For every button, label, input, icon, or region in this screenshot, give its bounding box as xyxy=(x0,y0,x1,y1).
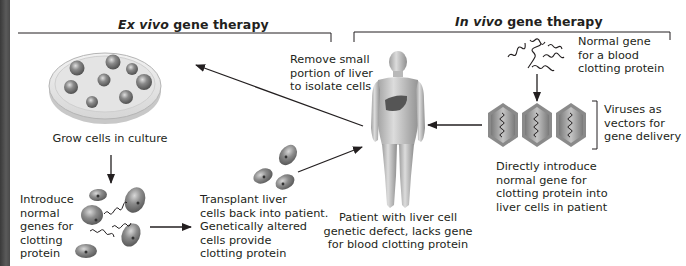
dna-strand-icon xyxy=(508,39,564,71)
arrow-transplant-to-patient xyxy=(298,147,362,172)
viruses-label: Viruses as vectors for gene delivery xyxy=(604,103,681,144)
virus-icon xyxy=(556,103,586,147)
remove-liver-label: Remove small portion of liver to isolate… xyxy=(290,53,373,94)
grow-cells-label: Grow cells in culture xyxy=(50,132,170,146)
virus-bracket xyxy=(592,101,597,149)
transplant-label: Transplant liver cells back into patient… xyxy=(200,193,328,261)
directly-introduce-label: Directly introduce normal gene for clott… xyxy=(496,160,608,214)
virus-icon xyxy=(488,103,518,147)
ex-vivo-bracket xyxy=(18,33,331,42)
virus-icon xyxy=(522,103,552,147)
transplant-cells-group xyxy=(251,141,301,192)
petri-dish-icon xyxy=(49,53,161,124)
transfected-cells-group xyxy=(75,184,149,258)
introduce-genes-label: Introduce normal genes for clotting prot… xyxy=(20,193,74,261)
patient-label: Patient with liver cell genetic defect, … xyxy=(318,211,478,252)
normal-gene-label: Normal gene for a blood clotting protein xyxy=(578,35,664,76)
human-body-icon xyxy=(371,51,425,208)
